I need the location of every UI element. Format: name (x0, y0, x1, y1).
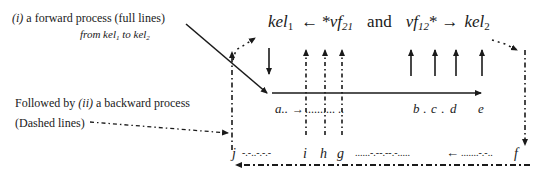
backward-row-j-trail: -.-..-.-.- (242, 147, 271, 158)
backward-pointer-arrow (90, 122, 228, 133)
sep-cd: . (441, 101, 444, 116)
backward-process-sublabel: (Dashed lines) (15, 116, 85, 130)
point-c: c (431, 101, 437, 116)
forward-process-sublabel: from kel1 to kel2 (80, 28, 150, 42)
forward-row-start: a.. (275, 101, 288, 116)
point-d: d (450, 101, 457, 116)
forward-row-dots: .......... .. (305, 102, 344, 116)
backward-row-mid: ......-.--.--.-..... (355, 147, 410, 158)
backward-row-tail: .......-.-.. (461, 147, 493, 158)
point-j: j (230, 146, 236, 161)
point-h: h (320, 146, 327, 161)
point-g: g (337, 146, 344, 161)
point-i: i (303, 146, 307, 161)
forward-process-label: (i) a forward process (full lines) (12, 11, 165, 25)
point-b: b (413, 101, 420, 116)
backward-top-left-arrow (233, 38, 255, 60)
sep-bc: . (423, 101, 426, 116)
backward-top-right-arrow (492, 40, 517, 50)
backward-process-label: Followed by (ii) a backward process (15, 96, 190, 110)
backward-row-arrow: ← (446, 145, 459, 160)
forward-row-arrow: → (292, 102, 304, 116)
process-diagram: (i) a forward process (full lines) from … (0, 0, 544, 175)
point-f: f (514, 146, 520, 161)
header-formula: kel1←*vf21andvf12*→kel2 (268, 12, 490, 32)
point-e: e (478, 101, 484, 116)
forward-pointer-arrow (186, 24, 267, 93)
